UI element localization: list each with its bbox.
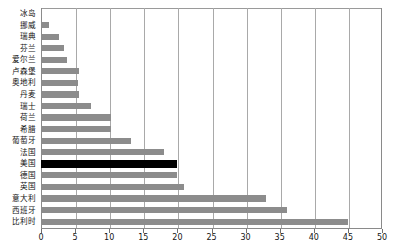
category-label: 葡萄牙 <box>0 135 38 147</box>
bar <box>41 184 184 190</box>
bar-row <box>41 135 382 147</box>
category-axis-labels: 冰岛挪威瑞典芬兰爱尔兰卢森堡奥地利丹麦瑞士荷兰希腊葡萄牙法国美国德国英国意大利西… <box>0 8 38 228</box>
tick-mark <box>246 229 247 233</box>
bar <box>41 207 287 213</box>
bar-row <box>41 54 382 66</box>
category-label: 瑞典 <box>0 31 38 43</box>
category-label: 卢森堡 <box>0 66 38 78</box>
category-label: 美国 <box>0 158 38 170</box>
bar <box>41 22 49 28</box>
tick-label: 5 <box>73 233 78 242</box>
bar <box>41 114 111 120</box>
bar-row <box>41 31 382 43</box>
bar-row <box>41 89 382 101</box>
tick-mark <box>382 229 383 233</box>
bar <box>41 45 64 51</box>
bar <box>41 126 111 132</box>
bar-row <box>41 205 382 217</box>
bar-row <box>41 170 382 182</box>
bar-row <box>41 43 382 55</box>
bar-row <box>41 8 382 20</box>
category-label: 挪威 <box>0 20 38 32</box>
tick-mark <box>212 229 213 233</box>
category-label: 瑞士 <box>0 101 38 113</box>
tick-mark <box>109 229 110 233</box>
category-label: 法国 <box>0 147 38 159</box>
bar-row <box>41 124 382 136</box>
category-label: 奥地利 <box>0 77 38 89</box>
tick-label: 35 <box>275 233 285 242</box>
tick-mark <box>143 229 144 233</box>
x-axis-tick-labels: 05101520253035404550 <box>41 233 382 247</box>
tick-label: 50 <box>377 233 387 242</box>
bar <box>41 80 78 86</box>
tick-label: 45 <box>343 233 353 242</box>
bar <box>41 57 67 63</box>
tick-label: 30 <box>241 233 251 242</box>
bar-row <box>41 193 382 205</box>
bar <box>41 149 164 155</box>
bar <box>41 103 91 109</box>
bar-highlighted <box>41 160 177 167</box>
bar-row <box>41 66 382 78</box>
bar <box>41 172 177 178</box>
category-label: 意大利 <box>0 193 38 205</box>
tick-label: 10 <box>104 233 114 242</box>
category-label: 丹麦 <box>0 89 38 101</box>
tick-label: 20 <box>172 233 182 242</box>
bar <box>41 195 266 201</box>
bar <box>41 138 131 144</box>
tick-label: 0 <box>38 233 43 242</box>
tick-label: 15 <box>138 233 148 242</box>
bar-series <box>41 8 382 228</box>
category-label: 爱尔兰 <box>0 54 38 66</box>
category-label: 西班牙 <box>0 205 38 217</box>
category-label: 希腊 <box>0 124 38 136</box>
bar <box>41 34 59 40</box>
category-label: 比利时 <box>0 216 38 228</box>
tick-mark <box>348 229 349 233</box>
category-label: 英国 <box>0 181 38 193</box>
bar-row <box>41 181 382 193</box>
bar-row <box>41 112 382 124</box>
tick-mark <box>314 229 315 233</box>
tick-mark <box>41 229 42 233</box>
tick-mark <box>177 229 178 233</box>
tick-label: 40 <box>309 233 319 242</box>
bar <box>41 219 348 225</box>
category-label: 德国 <box>0 170 38 182</box>
bar-row <box>41 216 382 228</box>
bar <box>41 10 42 16</box>
bar-row <box>41 147 382 159</box>
category-label: 荷兰 <box>0 112 38 124</box>
category-label: 芬兰 <box>0 43 38 55</box>
bar-row <box>41 20 382 32</box>
bar-chart: 冰岛挪威瑞典芬兰爱尔兰卢森堡奥地利丹麦瑞士荷兰希腊葡萄牙法国美国德国英国意大利西… <box>0 0 406 251</box>
tick-mark <box>75 229 76 233</box>
bar <box>41 68 79 74</box>
tick-label: 25 <box>206 233 216 242</box>
bar <box>41 91 79 97</box>
tick-mark <box>280 229 281 233</box>
bar-row <box>41 158 382 170</box>
category-label: 冰岛 <box>0 8 38 20</box>
bar-row <box>41 77 382 89</box>
bar-row <box>41 101 382 113</box>
